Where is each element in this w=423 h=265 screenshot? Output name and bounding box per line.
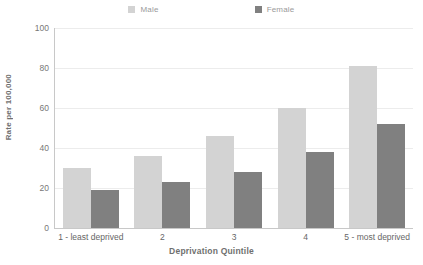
legend-item-female: Female: [255, 5, 295, 14]
bar-male[interactable]: [206, 136, 234, 228]
bar-female[interactable]: [377, 124, 405, 228]
y-tick-label: 60: [40, 103, 49, 113]
x-tick-label: 5 - most deprived: [344, 232, 410, 242]
plot-area: 020406080100 1 - least deprived2345 - mo…: [55, 28, 413, 228]
bar-group: [127, 28, 199, 228]
legend-swatch-male: [128, 6, 135, 13]
bar-female[interactable]: [234, 172, 262, 228]
bar-female[interactable]: [162, 182, 190, 228]
bar-group: [198, 28, 270, 228]
bar-group: [270, 28, 342, 228]
bar-group: [55, 28, 127, 228]
legend-label-female: Female: [267, 5, 295, 14]
chart-legend: Male Female: [0, 0, 423, 18]
x-tick-label: 3: [232, 232, 237, 242]
x-axis-title: Deprivation Quintile: [0, 246, 423, 256]
bar-chart: Male Female Rate per 100,000 02040608010…: [0, 0, 423, 265]
y-tick-label: 100: [35, 23, 49, 33]
y-tick-label: 20: [40, 183, 49, 193]
y-tick-label: 80: [40, 63, 49, 73]
y-tick-label: 40: [40, 143, 49, 153]
y-tick-label: 0: [44, 223, 49, 233]
y-axis-title: Rate per 100,000: [4, 74, 18, 140]
bar-female[interactable]: [91, 190, 119, 228]
x-tick-label: 2: [160, 232, 165, 242]
bar-male[interactable]: [278, 108, 306, 228]
x-axis-line: [54, 228, 413, 229]
bar-group: [341, 28, 413, 228]
bar-female[interactable]: [306, 152, 334, 228]
bar-male[interactable]: [349, 66, 377, 228]
x-tick-label: 1 - least deprived: [58, 232, 123, 242]
bar-male[interactable]: [134, 156, 162, 228]
legend-swatch-female: [255, 6, 262, 13]
legend-label-male: Male: [140, 5, 158, 14]
x-tick-label: 4: [303, 232, 308, 242]
legend-item-male: Male: [128, 5, 158, 14]
bar-male[interactable]: [63, 168, 91, 228]
